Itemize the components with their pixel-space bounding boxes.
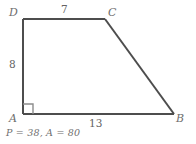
side-length-dc: 7 [61,4,68,15]
vertex-label-c: C [108,7,116,18]
side-cb-line [105,19,174,114]
vertex-label-a: A [9,113,17,124]
geometry-figure: D C B A 7 8 13 P = 38, A = 80 [0,0,196,144]
vertex-label-b: B [176,113,184,124]
side-length-ad: 8 [9,59,16,70]
figure-caption: P = 38, A = 80 [6,127,80,138]
vertex-label-d: D [9,7,18,18]
right-angle-marker-icon [23,104,33,114]
side-length-ab: 13 [89,118,102,129]
